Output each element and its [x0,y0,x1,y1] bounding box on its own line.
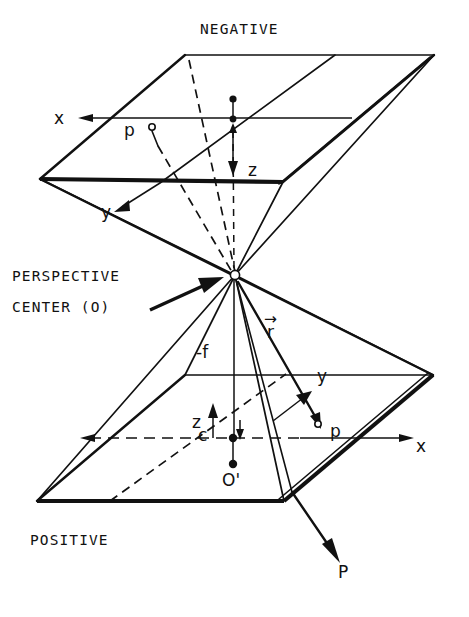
ray-vector-r [238,282,316,418]
negative-x-axis-arrowhead [78,114,93,122]
ray-neg-corner-far-right [235,55,434,275]
perspective-center-pointer-head [198,277,224,293]
positive-x-axis-arrowhead-right [399,434,414,442]
negative-image-point-tail [152,131,158,146]
negative-image-point-label: p [124,120,135,140]
negative-x-axis-label: x [54,108,64,128]
object-point-label: P [338,562,348,582]
ray-pos-corner-bottomright [235,275,284,501]
perspective-center-marker [230,270,239,279]
positive-image-point-label: p [330,421,341,441]
perspective-center-pointer [150,277,224,310]
diagram-canvas: NEGATIVE POSITIVE PERSPECTIVE CENTER (O)… [0,0,469,617]
negative-ray-dashed-a [189,60,235,272]
ray-vector-arrow-label: → [264,310,277,328]
positive-plane-label: POSITIVE [30,532,109,548]
negative-plane-right-edge-inner [279,57,430,184]
perspective-center-label-line1: PERSPECTIVE [12,268,120,284]
negative-plane-group [40,55,434,272]
principal-point-label: c [198,425,207,445]
negative-principal-point-dot [230,116,237,123]
positive-y-axis-line [273,398,303,421]
projection-origin-label: O' [222,470,240,490]
ray-neg-corner-right [235,182,283,275]
positive-principal-point-dot [229,434,237,442]
negative-y-axis-label: y [101,202,111,222]
negative-plane-label: NEGATIVE [200,21,279,37]
negative-image-point-marker [149,124,155,130]
object-point-pointer [292,492,340,563]
positive-x-axis-arrowhead-left [80,434,95,442]
positive-y-axis-label: y [317,366,327,386]
positive-z-axis-arrowhead [208,403,218,418]
negative-z-axis-label: z [248,160,257,180]
perspective-projection-figure: NEGATIVE POSITIVE PERSPECTIVE CENTER (O)… [0,0,469,617]
negative-y-axis-arrowhead [114,200,130,212]
projection-origin-dot [229,460,237,468]
negative-principal-pin-head [229,95,236,102]
perspective-center-label-line2: CENTER (O) [12,299,110,315]
focal-length-label: -f [196,342,209,362]
perspective-center-pointer-shaft [150,285,205,310]
positive-image-point-marker [315,421,321,427]
positive-x-axis-label: x [416,436,426,456]
